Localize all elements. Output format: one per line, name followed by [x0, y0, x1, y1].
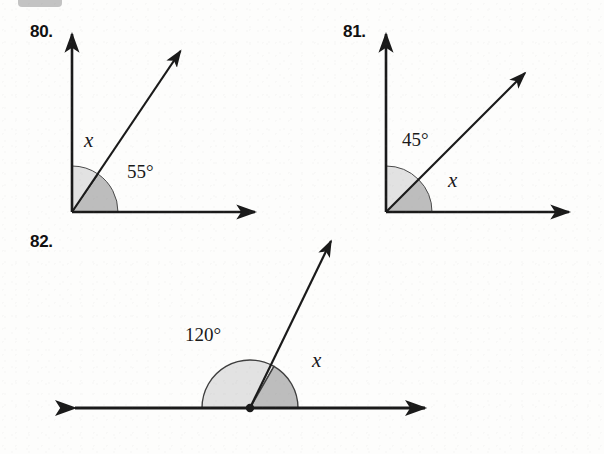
figure-81 [386, 34, 569, 212]
angle-label-120-82: 120° [185, 324, 221, 346]
figure-80 [72, 34, 255, 212]
angle-label-55-80: 55° [127, 161, 154, 183]
angle-label-x-80: x [84, 128, 93, 153]
angle-diagrams-canvas [0, 0, 604, 454]
angle-label-45-81: 45° [402, 129, 429, 151]
angle-label-x-81: x [448, 168, 457, 193]
textbook-page: 80. 81. 82. [0, 0, 604, 454]
vertex-dot-82 [246, 404, 254, 412]
angle-label-x-82: x [312, 348, 321, 373]
figure-82 [75, 241, 425, 412]
